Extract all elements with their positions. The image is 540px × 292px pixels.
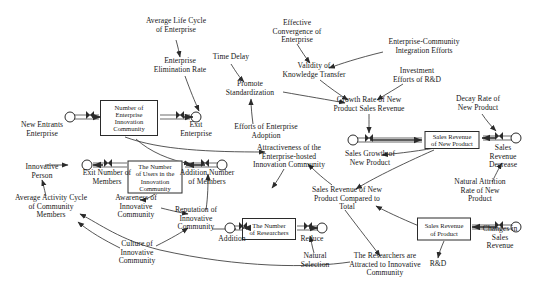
variable-validity-of-knowledge-transfer[interactable]: Validity of Knowledge Transfer	[282, 62, 345, 79]
variable-sales-growth-of-new-product[interactable]: Sales Growth of New Product	[345, 150, 395, 167]
variable-natural-selection[interactable]: Natural Selection	[301, 252, 330, 269]
variable-culture-of-innovative-community[interactable]: Culture of Innovative Community	[119, 240, 156, 266]
variable-new-entrants-enterprise[interactable]: New Entrants Enterprise	[21, 121, 63, 138]
variable-growth-rate-of-new-product-sales-revenue[interactable]: Growth Rate of New Product Sales Revenue	[333, 96, 404, 113]
variable-researchers-attracted-to-innovative-community[interactable]: The Researchers are Attracted to Innovat…	[349, 252, 421, 278]
variable-attractiveness-of-enterprise-hosted-innovation-community[interactable]: Attractiveness of the Enterprise-hosted …	[253, 144, 325, 170]
variable-awareness-of-innovative-community[interactable]: Awareness of Innovative Community	[115, 194, 156, 220]
variable-time-delay[interactable]: Time Delay	[213, 53, 249, 62]
variable-average-life-cycle-of-enterprise[interactable]: Average Life Cycle of Enterprise	[146, 17, 206, 34]
variable-efforts-of-enterprise-adoption[interactable]: Efforts of Enterprise Adoption	[234, 123, 297, 140]
valve-new-entrants[interactable]	[86, 111, 94, 119]
variable-reduce[interactable]: Reduce	[300, 235, 323, 244]
variable-addition-number-of-members[interactable]: Addition Number of Members	[180, 169, 235, 186]
variable-decay-rate-of-new-product[interactable]: Decay Rate of New Product	[456, 95, 500, 112]
variable-natural-attrition-rate-of-new-product[interactable]: Natural Attrition Rate of New Product	[450, 178, 510, 204]
variable-effective-convergence-of-enterprise[interactable]: Effective Convergence of Enterprise	[273, 19, 322, 45]
variable-sales-revenue-decrease[interactable]: Sales Revenue Decrease	[485, 144, 522, 170]
variable-addition[interactable]: Addition	[218, 235, 245, 244]
variable-enterprise-elimination-rate[interactable]: Enterprise Elimination Rate	[154, 57, 206, 74]
variable-reputation-of-innovative-community[interactable]: Reputation of Innovative Community	[175, 206, 217, 232]
valve-addition-researchers[interactable]	[239, 222, 247, 230]
variable-promote-standardization[interactable]: Promote Standardization	[226, 80, 274, 97]
valve-exit-enterprise[interactable]	[176, 111, 184, 119]
variable-exit-enterprise[interactable]: Exit Enterprise	[180, 121, 212, 138]
system-dynamics-diagram: Number of Enterprise Innovation Communit…	[0, 0, 540, 292]
variable-exit-number-of-members[interactable]: Exit Number of Members	[83, 169, 131, 186]
variable-rd[interactable]: R&D	[430, 260, 447, 269]
valve-exit-members[interactable]	[104, 159, 112, 167]
variable-sales-revenue-of-new-product-compared-to-total[interactable]: Sales Revenue of New Product Compared to…	[312, 186, 382, 212]
variable-changes-in-sales-revenue[interactable]: Changes in Sales Revenue	[480, 225, 520, 251]
variable-innovative-person[interactable]: Innovative Person	[26, 163, 59, 180]
valve-reduce[interactable]	[304, 222, 312, 230]
variable-average-activity-cycle-of-community-members[interactable]: Average Activity Cycle of Community Memb…	[15, 194, 87, 220]
valve-sales-growth[interactable]	[365, 134, 373, 142]
valve-addition-members[interactable]	[201, 159, 209, 167]
variable-enterprise-community-integration-efforts[interactable]: Enterprise-Community Integration Efforts	[388, 38, 459, 55]
variable-investment-efforts-of-rd[interactable]: Investment Efforts of R&D	[393, 67, 441, 84]
valve-sales-revenue-decrease[interactable]	[495, 132, 503, 140]
